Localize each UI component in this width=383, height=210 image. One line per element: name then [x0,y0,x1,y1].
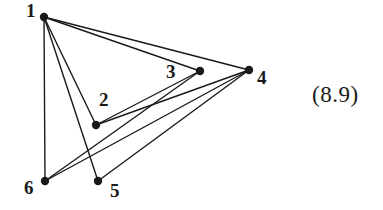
figure-root: 123456 (8.9) [0,0,383,210]
graph-edge-6-4 [45,70,249,181]
vertex-label-6: 6 [24,178,34,197]
graph-edges [44,17,249,181]
graph-vertex-2[interactable] [92,121,100,129]
graph-edge-6-3 [45,71,200,181]
equation-tag: (8.9) [312,82,359,108]
graph-vertex-3[interactable] [196,67,204,75]
graph-edge-1-3 [44,17,200,71]
graph-edge-1-4 [44,17,249,70]
graph-vertex-5[interactable] [94,177,102,185]
graph-edge-1-2 [44,17,96,125]
graph-vertex-1[interactable] [40,13,48,21]
graph-edge-1-6 [44,17,45,181]
vertex-label-2: 2 [99,90,109,109]
vertex-label-1: 1 [26,1,36,20]
vertex-label-4: 4 [257,68,267,87]
graph-edge-5-4 [98,70,249,181]
graph-vertex-4[interactable] [245,66,253,74]
graph-vertex-6[interactable] [41,177,49,185]
vertex-label-3: 3 [166,62,176,81]
vertex-label-5: 5 [110,181,120,200]
